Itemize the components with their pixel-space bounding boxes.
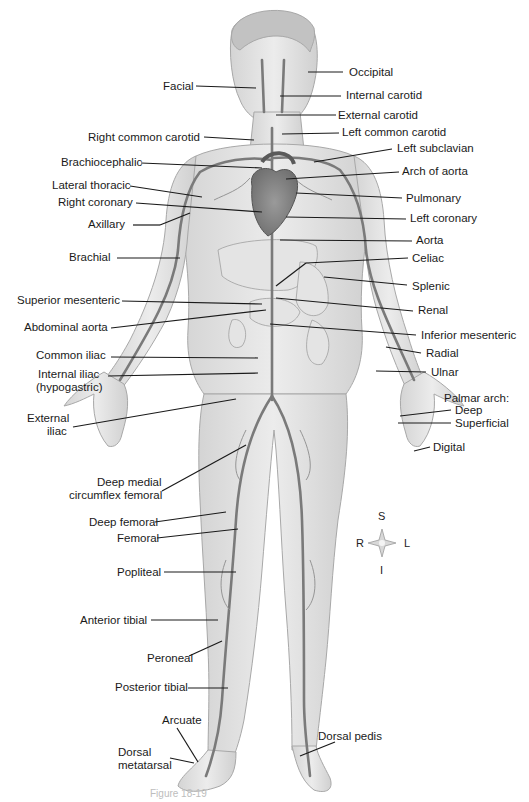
label-deep-medial-circumflex-sub: circumflex femoral: [69, 489, 162, 502]
label-splenic: Splenic: [412, 280, 450, 293]
label-dorsal-metatarsal: Dorsal: [118, 746, 151, 759]
label-arch-of-aorta: Arch of aorta: [402, 165, 468, 178]
label-deep-femoral: Deep femoral: [89, 516, 158, 529]
compass-left: L: [404, 537, 410, 549]
label-aorta: Aorta: [416, 234, 444, 247]
label-deep-medial-circumflex: Deep medial: [97, 476, 162, 489]
label-facial: Facial: [163, 80, 194, 93]
label-external-iliac: External: [27, 412, 69, 425]
label-palmar-superficial: Superficial: [455, 417, 509, 430]
compass-inferior: I: [380, 564, 383, 576]
label-superior-mesenteric: Superior mesenteric: [17, 294, 120, 307]
figure-caption: Figure 18-19: [150, 788, 207, 799]
label-femoral: Femoral: [117, 532, 159, 545]
label-pulmonary: Pulmonary: [406, 192, 461, 205]
label-peroneal: Peroneal: [147, 652, 193, 665]
label-ulnar: Ulnar: [431, 366, 458, 379]
label-posterior-tibial: Posterior tibial: [115, 681, 188, 694]
label-popliteal: Popliteal: [117, 566, 161, 579]
label-right-coronary: Right coronary: [58, 196, 133, 209]
label-external-carotid: External carotid: [338, 109, 418, 122]
label-dorsal-metatarsal-sub: metatarsal: [118, 759, 172, 772]
label-anterior-tibial: Anterior tibial: [80, 614, 147, 627]
compass-rose-icon: [368, 529, 396, 557]
label-lateral-thoracic: Lateral thoracic: [52, 179, 131, 192]
label-celiac: Celiac: [412, 252, 444, 265]
label-radial: Radial: [426, 347, 459, 360]
label-inferior-mesenteric: Inferior mesenteric: [421, 329, 516, 342]
label-left-coronary: Left coronary: [410, 212, 477, 225]
label-internal-iliac-sub: (hypogastric): [36, 381, 102, 394]
label-abdominal-aorta: Abdominal aorta: [24, 321, 108, 334]
label-dorsal-pedis: Dorsal pedis: [318, 730, 382, 743]
label-internal-carotid: Internal carotid: [346, 89, 422, 102]
compass-superior: S: [378, 510, 385, 522]
label-axillary: Axillary: [88, 218, 125, 231]
label-external-iliac-sub: iliac: [47, 425, 67, 438]
label-palmar-deep: Deep: [455, 404, 483, 417]
label-digital: Digital: [433, 441, 465, 454]
label-occipital: Occipital: [349, 66, 393, 79]
compass-right: R: [356, 537, 364, 549]
label-common-iliac: Common iliac: [36, 349, 106, 362]
label-brachiocephalic: Brachiocephalic: [61, 156, 142, 169]
label-arcuate: Arcuate: [162, 714, 202, 727]
label-brachial: Brachial: [69, 251, 111, 264]
arterial-system-diagram: Facial Right common carotid Brachiocepha…: [0, 0, 529, 802]
label-left-subclavian: Left subclavian: [397, 142, 474, 155]
label-right-common-carotid: Right common carotid: [88, 131, 200, 144]
label-left-common-carotid: Left common carotid: [342, 126, 446, 139]
label-internal-iliac: Internal iliac: [38, 368, 99, 381]
label-renal: Renal: [418, 304, 448, 317]
